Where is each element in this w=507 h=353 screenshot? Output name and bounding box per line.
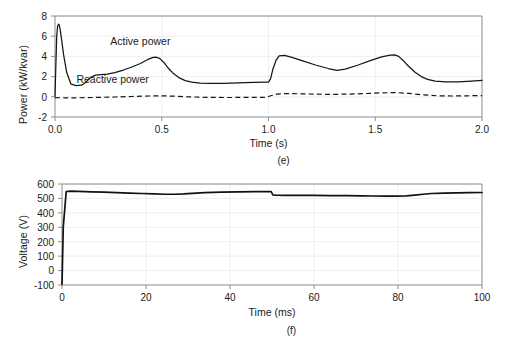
x-tickmarks-power [55,117,482,121]
x-tickmarks-voltage [62,285,482,289]
x-tick-labels-voltage: 0 20 40 60 80 100 [59,292,491,303]
y-tick-label: 8 [41,11,47,22]
x-axis-title-power: Time (s) [0,137,507,149]
y-tick-label: 400 [37,208,54,219]
y-tickmarks-voltage [58,184,62,285]
x-tick-label: 100 [474,292,491,303]
y-tick-label: 300 [37,222,54,233]
y-tick-label: 500 [37,193,54,204]
axis-frame-voltage [62,184,482,285]
y-axis-title-power: Power (kW/kvar) [17,45,29,124]
voltage-plot-svg: 600 500 400 300 200 100 0 -100 0 20 40 6… [0,170,507,315]
y-tick-labels-power: 8 6 4 2 0 -2 [38,11,47,123]
annotation-active-power: Active power [110,35,171,47]
x-tick-label: 0.0 [48,124,62,135]
y-axis-title-voltage: Voltage (V) [17,215,29,268]
power-plot-svg: 8 6 4 2 0 -2 0.0 0.5 1.0 1.5 2.0 Active … [0,0,507,145]
y-tick-label: 200 [37,237,54,248]
x-tick-label: 1.0 [262,124,276,135]
grid-group [62,184,482,285]
y-tick-label: 2 [41,71,47,82]
y-tick-label: -100 [34,280,54,291]
y-tick-label: 0 [41,92,47,103]
x-axis-title-voltage: Time (ms) [0,306,507,318]
y-tick-label: 100 [37,251,54,262]
x-tick-label: 20 [140,292,152,303]
annotation-reactive-power: Reactive power [76,73,149,85]
y-tick-label: 4 [41,51,47,62]
y-tickmarks-power [51,16,55,117]
x-tick-label: 0.5 [155,124,169,135]
y-tick-label: -2 [38,112,47,123]
chart-panel-voltage: Voltage (V) [0,170,507,353]
y-tick-label: 0 [48,265,54,276]
x-tick-label: 40 [224,292,236,303]
subfigure-caption-f: (f) [0,325,507,336]
grid-group [55,16,482,117]
x-tick-label: 80 [392,292,404,303]
y-tick-label: 600 [37,179,54,190]
y-tick-labels-voltage: 600 500 400 300 200 100 0 -100 [34,179,54,291]
x-tick-label: 2.0 [475,124,489,135]
x-tick-label: 1.5 [368,124,382,135]
x-tick-labels-power: 0.0 0.5 1.0 1.5 2.0 [48,124,489,135]
subfigure-caption-e: (e) [0,155,507,166]
y-tick-label: 6 [41,31,47,42]
x-tick-label: 60 [308,292,320,303]
figure-container: Power (kW/kvar) [0,0,507,353]
x-tick-label: 0 [59,292,65,303]
chart-panel-power: Power (kW/kvar) [0,0,507,176]
